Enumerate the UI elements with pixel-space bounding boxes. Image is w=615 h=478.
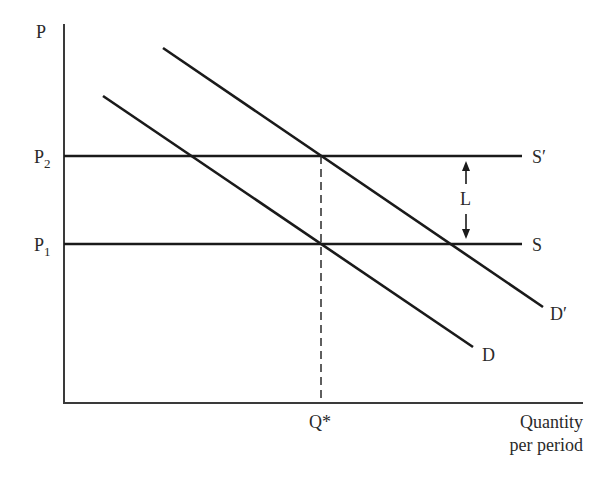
demand-shifted-label: D′	[550, 304, 567, 324]
price-label-p2: P2	[34, 147, 51, 171]
gap-label: L	[460, 189, 471, 209]
gap-arrow-up	[462, 161, 470, 184]
gap-arrow-down	[462, 214, 470, 239]
demand-shifted-line	[163, 48, 543, 307]
y-axis-label: P	[36, 22, 46, 42]
x-axis-label-line2: per period	[510, 435, 583, 455]
x-axis-label-line1: Quantity	[520, 412, 583, 432]
supply-demand-diagram: P P2 P1 S′ S L D′ D Q* Quantity per peri…	[0, 0, 615, 478]
quantity-star-label: Q*	[309, 412, 331, 432]
demand-label: D	[482, 345, 495, 365]
supply-label: S	[532, 235, 542, 255]
supply-shifted-label: S′	[532, 147, 546, 167]
price-label-p1: P1	[34, 235, 51, 259]
